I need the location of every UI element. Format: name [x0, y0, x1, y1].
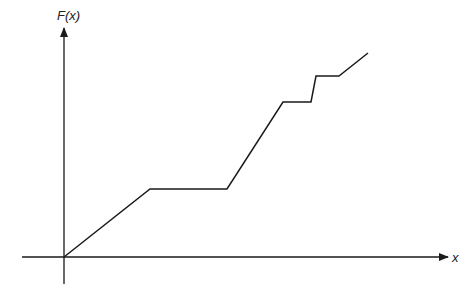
function-line: [64, 53, 368, 257]
y-axis-label: F(x): [57, 8, 80, 23]
x-axis-label: x: [452, 250, 459, 265]
plot-svg: [0, 0, 472, 292]
chart-area: F(x) x: [0, 0, 472, 292]
